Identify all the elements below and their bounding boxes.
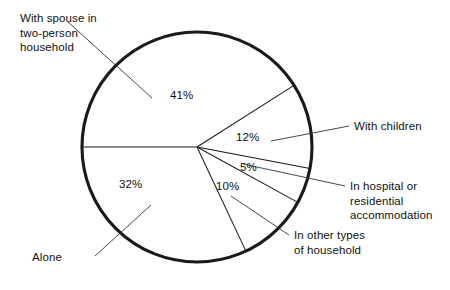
slice-percent-other-types: 10%: [216, 180, 239, 193]
slice-percent-spouse: 41%: [170, 89, 193, 102]
slice-percent-alone: 32%: [119, 178, 142, 191]
slice-percent-children: 12%: [236, 131, 259, 144]
category-label-children: With children: [354, 119, 422, 134]
category-label-hospital: In hospital or residential accommodation: [350, 179, 432, 223]
category-label-spouse: With spouse in two-person household: [20, 11, 97, 55]
category-label-other-types: In other types of household: [294, 228, 365, 257]
pie-chart-figure: 41% 12% 5% 10% 32% With spouse in two-pe…: [0, 0, 450, 290]
category-label-alone: Alone: [32, 250, 62, 265]
slice-percent-hospital: 5%: [240, 161, 257, 174]
